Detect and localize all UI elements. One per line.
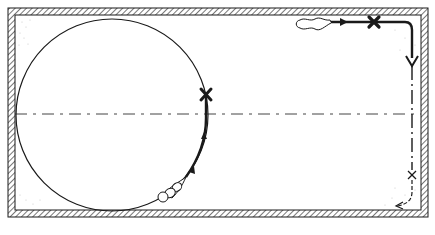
hatched-frame [8, 8, 428, 217]
trajectory-diagram [0, 0, 435, 235]
